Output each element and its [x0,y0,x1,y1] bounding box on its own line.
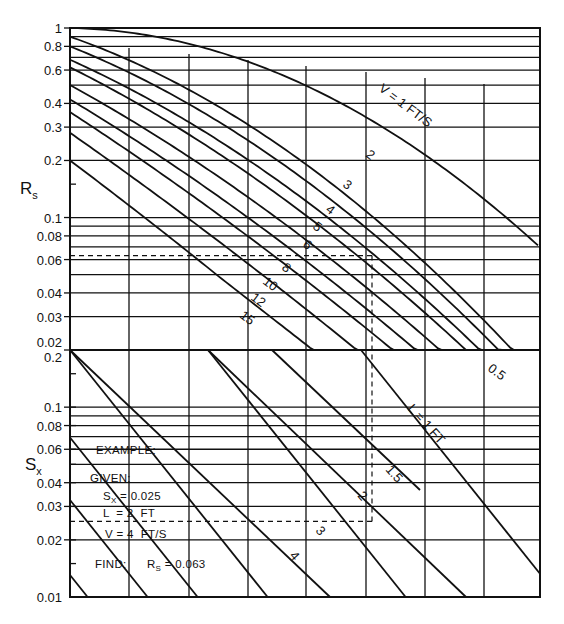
rs-tick-label: 0.03 [37,310,62,325]
example-given-sx: SX = 0.025 [103,490,161,505]
example-find-label: FIND: [95,558,127,570]
sx-tick-label: 0.2 [44,350,62,365]
label-l05: 0.5 [485,360,508,383]
rs-tick-label: 0.3 [44,120,62,135]
nomograph-chart: 10.80.60.40.30.20.10.080.060.040.030.020… [0,0,564,624]
sx-tick-label: 0.03 [37,499,62,514]
l-line [70,575,88,597]
label-l15: 1.5 [383,462,406,485]
example-heading: EXAMPLE: [96,444,156,456]
rs-axis-title: Rs [20,179,38,201]
example-given-v: V = 4 FT/S [105,528,167,540]
example-given-label: GIVEN: [90,472,131,484]
sx-tick-label: 0.1 [44,400,62,415]
label-l2: 2 [355,488,371,503]
sx-tick-label: 0.01 [37,590,62,605]
label-v3: 3 [340,176,355,192]
label-l1: L = 1 FT [405,401,448,447]
l-line [208,350,466,597]
sx-tick-label: 0.04 [37,476,62,491]
rs-tick-label: 1 [55,21,62,36]
rs-tick-label: 0.8 [44,39,62,54]
example-given-l: L = 2 FT [103,507,155,519]
label-l3: 3 [313,523,329,538]
label-v15: 15 [237,307,258,328]
rs-tick-label: 0.08 [37,229,62,244]
rs-tick-label: 0.4 [44,96,62,111]
sx-tick-label: 0.08 [37,419,62,434]
sx-axis-title: Sx [25,455,42,477]
sx-tick-label: 0.06 [37,442,62,457]
rs-tick-label: 0.2 [44,153,62,168]
rs-tick-label: 0.1 [44,211,62,226]
label-v1: V = 1 FT/S [376,80,435,130]
rs-tick-label: 0.06 [37,253,62,268]
label-l4: 4 [287,548,303,563]
rs-tick-label: 0.04 [37,286,62,301]
v-curve [70,133,358,350]
v-curve [70,37,514,350]
rs-tick-label: 0.6 [44,63,62,78]
axis-tick-labels: 10.80.60.40.30.20.10.080.060.040.030.020… [37,21,62,605]
sx-tick-label: 0.02 [37,533,62,548]
rs-tick-label: 0.02 [37,335,62,350]
